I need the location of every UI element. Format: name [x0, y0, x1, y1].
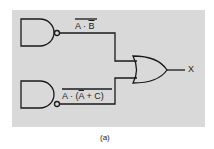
label-top-b: B	[89, 21, 95, 31]
inversion-bubble-bottom	[55, 102, 60, 107]
wire-top	[60, 33, 138, 61]
label-bottom-a: A · (	[62, 91, 79, 101]
label-bottom-rest: + C)	[84, 91, 104, 101]
label-top-nand-output: A · B	[75, 21, 95, 31]
nand-gate-top	[21, 19, 54, 46]
inversion-bubble-top	[55, 31, 60, 36]
label-bottom-nand-output: A · (A + C)	[62, 91, 104, 101]
output-label: X	[188, 64, 194, 74]
circuit-wires	[0, 0, 214, 149]
label-top-a: A ·	[75, 21, 89, 31]
figure-caption: (a)	[100, 133, 110, 142]
or-gate	[133, 56, 167, 83]
nand-gate-bottom	[21, 81, 54, 108]
